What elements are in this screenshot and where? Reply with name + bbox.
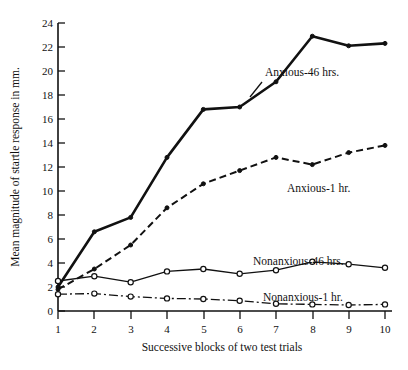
data-point <box>201 107 205 111</box>
data-point <box>56 287 60 291</box>
y-tick-label: 0 <box>48 305 54 317</box>
data-point <box>238 169 242 173</box>
y-tick-label: 16 <box>42 113 54 125</box>
series-label-anxious-46: Anxious-46 hrs. <box>265 66 339 78</box>
x-tick-label: 4 <box>164 323 170 335</box>
series-label-nonanxious-46: Nonanxious-46 hrs. <box>253 255 344 267</box>
data-point <box>310 163 314 167</box>
data-point <box>310 34 314 38</box>
data-point <box>128 294 133 299</box>
startle-response-figure: 0 2 4 6 8 10 12 14 16 18 20 22 24 <box>0 0 408 370</box>
x-tick-label: 9 <box>346 323 352 335</box>
data-point <box>201 296 206 301</box>
data-point <box>129 215 133 219</box>
data-point <box>201 182 205 186</box>
data-point <box>382 302 387 307</box>
data-point <box>92 274 97 279</box>
data-point <box>383 41 387 45</box>
data-point <box>274 155 278 159</box>
data-point <box>92 230 96 234</box>
x-tick-label: 2 <box>91 323 97 335</box>
x-tick-label: 5 <box>201 323 207 335</box>
data-point <box>273 268 278 273</box>
data-point <box>237 298 242 303</box>
data-point <box>165 206 169 210</box>
data-point <box>201 266 206 271</box>
series-path <box>58 145 385 289</box>
data-point <box>274 80 278 84</box>
y-tick-label: 10 <box>42 185 54 197</box>
y-tick-label: 18 <box>42 89 54 101</box>
data-point <box>347 151 351 155</box>
data-point <box>92 291 97 296</box>
data-point <box>346 302 351 307</box>
data-point <box>92 267 96 271</box>
x-axis-tick-labels: 1 2 3 4 5 6 7 8 9 10 <box>55 323 391 335</box>
series-anxious-1-hr <box>56 143 387 291</box>
data-point <box>347 44 351 48</box>
y-tick-label: 22 <box>42 41 53 53</box>
y-tick-label: 4 <box>48 257 54 269</box>
y-tick-label: 14 <box>42 137 54 149</box>
y-tick-label: 12 <box>42 161 53 173</box>
y-tick-label: 20 <box>42 65 54 77</box>
data-point <box>237 271 242 276</box>
data-point <box>383 143 387 147</box>
x-tick-label: 3 <box>128 323 134 335</box>
data-point <box>55 278 60 283</box>
x-tick-label: 7 <box>273 323 279 335</box>
data-point <box>346 262 351 267</box>
y-axis-ticks <box>58 23 65 311</box>
x-tick-label: 8 <box>310 323 316 335</box>
data-point <box>128 280 133 285</box>
series-label-anxious-1: Anxious-1 hr. <box>287 182 350 194</box>
y-tick-label: 2 <box>48 281 54 293</box>
data-point <box>55 292 60 297</box>
x-axis-ticks <box>58 311 385 319</box>
x-tick-label: 6 <box>237 323 243 335</box>
data-point <box>129 243 133 247</box>
data-point <box>164 269 169 274</box>
data-point <box>382 265 387 270</box>
x-tick-label: 10 <box>380 323 392 335</box>
y-axis-tick-labels: 0 2 4 6 8 10 12 14 16 18 20 22 24 <box>42 17 54 317</box>
x-axis-title: Successive blocks of two test trials <box>142 341 303 353</box>
y-tick-label: 8 <box>48 209 54 221</box>
x-tick-label: 1 <box>55 323 61 335</box>
y-tick-label: 6 <box>48 233 54 245</box>
y-tick-label: 24 <box>42 17 54 29</box>
data-point <box>164 296 169 301</box>
data-point <box>165 155 169 159</box>
data-point <box>238 105 242 109</box>
y-axis-title: Mean magnitude of startle response in mm… <box>9 67 22 267</box>
series-label-nonanxious-1: Nonanxious-1 hr. <box>263 291 343 303</box>
line-chart-canvas: 0 2 4 6 8 10 12 14 16 18 20 22 24 <box>0 0 408 370</box>
